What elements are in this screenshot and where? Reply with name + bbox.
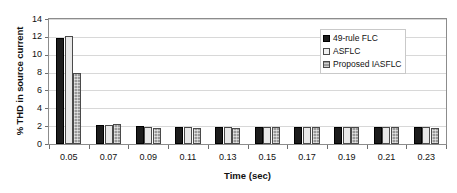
bar [431,128,439,144]
bar [65,36,73,144]
thd-bar-chart: % THD in source current 02468101214 0.05… [0,0,457,193]
bar-group [96,19,121,144]
legend-item: 49-rule FLC [323,32,402,45]
legend-swatch-icon [323,61,330,68]
y-axis-tick-label: 8 [20,68,42,77]
bar [136,126,144,144]
x-axis-tick-label: 0.23 [406,152,446,162]
y-axis-tick-label: 4 [20,104,42,113]
x-axis-tick-mark [128,145,129,149]
x-axis-tick-label: 0.05 [49,152,89,162]
bar [175,127,183,144]
legend-item: Proposed IASFLC [323,58,402,71]
y-axis-tick-label: 10 [20,50,42,59]
y-axis-tick-label: 2 [20,122,42,131]
y-axis-tick-label: 12 [20,32,42,41]
bar-group [294,19,319,144]
x-axis-tick-mark [208,145,209,149]
bar [73,73,81,144]
bar [272,127,280,144]
bar-group [136,19,161,144]
bar-group [255,19,280,144]
bar [96,125,104,144]
x-axis-tick-mark [367,145,368,149]
x-axis-tick-label: 0.21 [366,152,406,162]
x-axis-tick-mark [406,145,407,149]
bar [144,127,152,144]
bar-group [414,19,439,144]
bar [303,127,311,144]
bar [391,127,399,144]
bar [263,127,271,144]
x-axis-tick-mark [248,145,249,149]
bar [414,127,422,144]
chart-legend: 49-rule FLCASFLCProposed IASFLC [320,29,406,74]
bar [153,128,161,144]
y-axis-tick-label: 6 [20,86,42,95]
legend-swatch-icon [323,48,330,55]
legend-label: 49-rule FLC [333,34,378,43]
bar [56,38,64,144]
x-axis-tick-label: 0.07 [89,152,129,162]
bar [215,127,223,144]
y-axis-title: % THD in source current [13,6,27,156]
x-axis-tick-mark [287,145,288,149]
x-axis-tick-mark [168,145,169,149]
x-axis-tick-mark [89,145,90,149]
legend-label: ASFLC [333,47,360,56]
bar [374,127,382,144]
x-axis-tick-mark [327,145,328,149]
bar [184,127,192,144]
bar [193,128,201,144]
bar-group [215,19,240,144]
bar [343,127,351,144]
x-axis-tick-label: 0.19 [327,152,367,162]
bar [255,127,263,144]
bar [422,127,430,144]
legend-label: Proposed IASFLC [333,60,402,69]
x-axis-tick-label: 0.13 [208,152,248,162]
bar [334,127,342,144]
x-axis-tick-label: 0.11 [168,152,208,162]
x-axis-tick-mark [446,145,447,149]
bar-group [56,19,81,144]
x-axis-tick-label: 0.09 [128,152,168,162]
x-axis-tick-mark [49,145,50,149]
bar [105,125,113,144]
bar [113,124,121,144]
y-axis-tick-label: 14 [20,15,42,24]
bar [224,127,232,144]
bar-group [175,19,200,144]
x-axis-tick-label: 0.15 [247,152,287,162]
bar [294,127,302,144]
legend-swatch-icon [323,35,330,42]
y-axis-tick-label: 0 [20,140,42,149]
bar [312,127,320,144]
x-axis-tick-label: 0.17 [287,152,327,162]
legend-item: ASFLC [323,45,402,58]
x-axis-title: Time (sec) [48,170,447,181]
bar [382,127,390,144]
bar [351,127,359,144]
bar [232,128,240,144]
